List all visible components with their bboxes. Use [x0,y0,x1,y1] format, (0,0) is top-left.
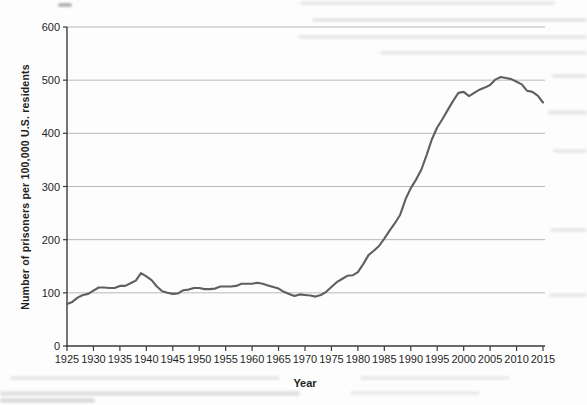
y-axis-title: Number of prisoners per 100,000 U.S. res… [19,22,33,352]
y-tick-label-600: 600 [42,21,60,33]
x-tick-label-1990: 1990 [399,353,423,365]
x-tick-label-1965: 1965 [266,353,290,365]
y-tick-label-100: 100 [42,287,60,299]
x-tick-label-1925: 1925 [55,353,79,365]
y-tick-label-400: 400 [42,127,60,139]
x-tick-label-1970: 1970 [293,353,317,365]
x-tick-label-2015: 2015 [531,353,555,365]
x-tick-label-1945: 1945 [161,353,185,365]
x-axis-title: Year [255,377,355,389]
y-tick-label-500: 500 [42,74,60,86]
x-tick-label-1960: 1960 [240,353,264,365]
x-tick-label-1935: 1935 [108,353,132,365]
x-tick-label-2000: 2000 [451,353,475,365]
x-tick-label-1930: 1930 [81,353,105,365]
x-tick-label-1985: 1985 [372,353,396,365]
x-tick-label-1950: 1950 [187,353,211,365]
y-tick-label-300: 300 [42,181,60,193]
prison-rate-figure: 1925193019351940194519501955196019651970… [0,0,587,405]
data-line-prisoners-per-100000-us-residents [67,77,543,304]
x-tick-label-1940: 1940 [134,353,158,365]
y-tick-label-200: 200 [42,234,60,246]
x-tick-label-1980: 1980 [346,353,370,365]
x-tick-label-2005: 2005 [478,353,502,365]
x-tick-label-1955: 1955 [213,353,237,365]
x-tick-label-1975: 1975 [319,353,343,365]
prisoners-line-chart: 1925193019351940194519501955196019651970… [0,0,587,405]
x-tick-label-1995: 1995 [425,353,449,365]
x-tick-label-2010: 2010 [504,353,528,365]
y-tick-label-0: 0 [54,340,60,352]
